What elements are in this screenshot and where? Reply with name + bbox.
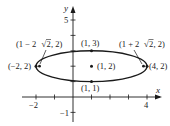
svg-text:(1 + 2: (1 + 2 [119, 39, 139, 49]
point-left-focus [38, 65, 41, 68]
right-focus-suffix: , 2) [154, 39, 166, 49]
label-left-vertex: (−2, 2) [8, 61, 31, 71]
left-focus-suffix: , 2) [51, 39, 63, 49]
point-top-covertex [90, 49, 93, 52]
x-axis-label: x [155, 85, 160, 95]
x-tick-label-4: 4 [144, 100, 149, 110]
point-center [90, 65, 93, 68]
label-top-covertex: (1, 3) [81, 38, 100, 48]
label-right-focus: (1 + 2 √ 2 , 2) [119, 39, 165, 49]
label-right-vertex: (4, 2) [149, 61, 168, 71]
y-axis-arrow-icon [71, 6, 76, 13]
x-tick-label-neg2: −2 [29, 100, 38, 110]
ellipse-graph: −2 4 x 5 −1 y (−2, 2) (4, 2) (1, 2) (1, … [0, 0, 170, 126]
y-axis: 5 −1 y [60, 3, 76, 122]
label-center: (1, 2) [97, 61, 116, 71]
y-tick-label-neg1: −1 [60, 108, 69, 118]
x-axis-arrow-icon [155, 95, 162, 100]
svg-text:(1 − 2: (1 − 2 [16, 39, 36, 49]
point-left-vertex [35, 65, 38, 68]
points [35, 49, 149, 83]
left-focus-prefix: (1 − 2 [16, 39, 36, 49]
point-right-focus [142, 65, 145, 68]
right-focus-prefix: (1 + 2 [119, 39, 139, 49]
label-bottom-covertex: (1, 1) [81, 83, 100, 93]
y-axis-label: y [63, 3, 68, 13]
y-tick-label-5: 5 [64, 15, 68, 25]
label-left-focus: (1 − 2 √ 2 , 2) [16, 39, 63, 49]
